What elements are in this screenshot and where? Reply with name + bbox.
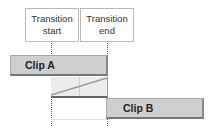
transition-ramp-icon: [51, 77, 107, 96]
clip-b: Clip B: [106, 98, 204, 119]
track-baseline: [51, 119, 107, 120]
clip-a: Clip A: [10, 55, 108, 76]
transition-region: [51, 77, 108, 98]
clip-b-label: Clip B: [123, 102, 153, 114]
transition-end-text: Transition end: [83, 13, 131, 37]
transition-start-text: Transition start: [28, 13, 76, 37]
transition-end-label: Transition end: [80, 8, 134, 42]
clip-a-label: Clip A: [25, 59, 55, 71]
transition-start-label: Transition start: [25, 8, 79, 42]
